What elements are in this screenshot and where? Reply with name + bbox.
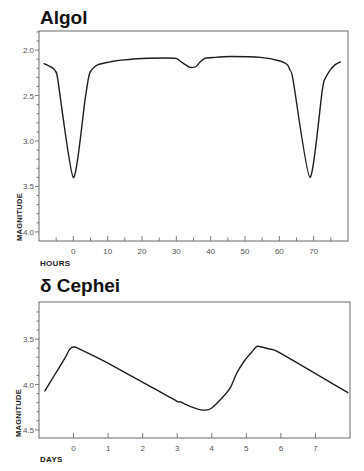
algol-plot: 2.02.53.03.54.0010203040506070: [23, 31, 348, 256]
algol-light-curve: [44, 57, 340, 178]
algol-y-tick-label: 2.0: [23, 46, 35, 55]
delta-cephei-x-tick-label: 5: [244, 444, 249, 453]
algol-x-tick-label: 20: [138, 247, 147, 256]
algol-y-tick-label: 3.5: [23, 182, 35, 191]
delta-cephei-y-tick-label: 4.0: [23, 381, 35, 390]
delta-cephei-x-tick-label: 6: [279, 444, 284, 453]
delta-cephei-plot: 3.54.04.501234567: [23, 302, 350, 453]
delta-cephei-y-tick-label: 3.5: [23, 335, 35, 344]
delta-cephei-title: δ Cephei: [40, 275, 120, 296]
algol-y-tick-label: 2.5: [23, 92, 35, 101]
algol-x-tick-label: 60: [275, 247, 284, 256]
delta-cephei-x-axis-label: DAYS: [40, 455, 63, 464]
delta-cephei-x-tick-label: 7: [313, 444, 318, 453]
delta-cephei-plot-frame: [39, 302, 350, 438]
algol-x-tick-label: 10: [103, 247, 112, 256]
algol-x-tick-label: 0: [71, 247, 76, 256]
algol-y-axis-label: MAGNITUDE: [15, 193, 24, 241]
delta-cephei-x-tick-label: 1: [106, 444, 111, 453]
figure-canvas: Algol 2.02.53.03.54.0010203040506070 MAG…: [0, 0, 364, 471]
algol-y-tick-label: 4.0: [23, 228, 35, 237]
delta-cephei-x-tick-label: 2: [140, 444, 145, 453]
delta-cephei-y-axis-label: MAGNITUDE: [14, 389, 23, 437]
algol-chart: Algol 2.02.53.03.54.0010203040506070 MAG…: [15, 7, 348, 268]
algol-title: Algol: [40, 7, 88, 28]
algol-x-tick-label: 40: [206, 247, 215, 256]
delta-cephei-light-curve: [45, 346, 348, 410]
delta-cephei-x-tick-label: 0: [71, 444, 76, 453]
algol-x-tick-label: 30: [172, 247, 181, 256]
delta-cephei-x-tick-label: 4: [210, 444, 215, 453]
algol-x-axis-label: HOURS: [40, 259, 71, 268]
algol-x-tick-label: 70: [309, 247, 318, 256]
algol-x-tick-label: 50: [241, 247, 250, 256]
delta-cephei-chart: δ Cephei 3.54.04.501234567 MAGNITUDE DAY…: [14, 275, 350, 464]
delta-cephei-x-tick-label: 3: [175, 444, 180, 453]
algol-y-tick-label: 3.0: [23, 137, 35, 146]
delta-cephei-y-tick-label: 4.5: [23, 426, 35, 435]
